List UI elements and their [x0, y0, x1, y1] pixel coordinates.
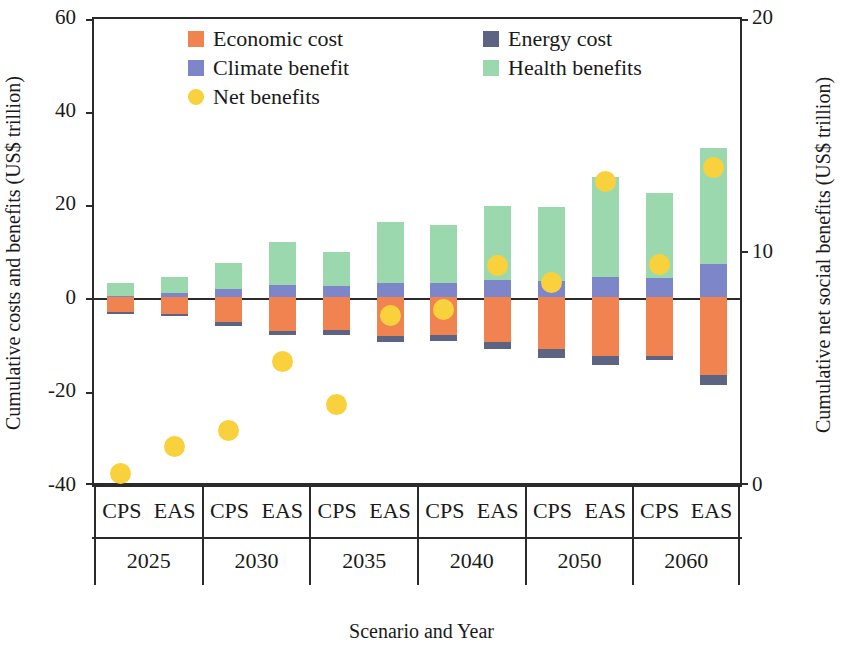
x-scenario-label-cps-2030: CPS [210, 498, 249, 524]
x-scenario-row-2035: CPSEAS [311, 485, 417, 537]
segment-health-benefits [323, 252, 350, 286]
net-benefit-point-2035-eas [380, 305, 401, 326]
net-benefit-point-2030-eas [272, 351, 293, 372]
legend-label-energy-cost: Energy cost [508, 28, 612, 50]
legend-item-economic-cost: Economic cost [188, 26, 343, 52]
x-year-label-2040: 2040 [419, 537, 525, 585]
x-scenario-row-2060: CPSEAS [634, 485, 738, 537]
segment-climate-benefit [323, 286, 350, 297]
x-scenario-label-eas-2060: EAS [691, 498, 733, 524]
segment-health-benefits [107, 283, 134, 295]
segment-climate-benefit [377, 283, 404, 298]
legend-item-net-benefits: Net benefits [188, 84, 320, 110]
legend: Economic cost Energy cost Climate benefi… [188, 26, 688, 108]
segment-climate-benefit [215, 289, 242, 297]
segment-economic-cost [269, 297, 296, 330]
legend-label-net-benefits: Net benefits [213, 86, 320, 108]
segment-climate-benefit [700, 264, 727, 297]
segment-energy-cost [700, 375, 727, 384]
net-benefit-point-2030-cps [218, 420, 239, 441]
bar-2025-eas [161, 19, 188, 483]
x-group-2025: CPSEAS2025 [94, 485, 202, 585]
net-benefit-point-2050-cps [541, 272, 562, 293]
legend-item-energy-cost: Energy cost [483, 26, 612, 52]
segment-health-benefits [430, 225, 457, 283]
segment-economic-cost [161, 297, 188, 314]
legend-swatch-economic-cost [188, 31, 204, 47]
segment-health-benefits [269, 242, 296, 286]
x-scenario-label-eas-2035: EAS [369, 498, 411, 524]
x-table-top-rule [92, 485, 742, 487]
x-table-mid-rule [92, 537, 742, 539]
segment-health-benefits [377, 222, 404, 282]
segment-economic-cost [646, 297, 673, 355]
legend-item-health-benefits: Health benefits [483, 55, 642, 81]
x-group-2040: CPSEAS2040 [417, 485, 525, 585]
segment-energy-cost [538, 349, 565, 357]
x-axis-category-table: CPSEAS2025CPSEAS2030CPSEAS2035CPSEAS2040… [92, 485, 742, 585]
segment-energy-cost [215, 322, 242, 326]
y-tick-left-0: 0 [20, 285, 76, 310]
tick-left-0 [86, 298, 94, 300]
segment-economic-cost [215, 297, 242, 322]
legend-swatch-climate-benefit [188, 60, 204, 76]
segment-energy-cost [107, 312, 134, 314]
y-tick-right-0: 0 [752, 472, 808, 497]
y-tick-left-m20: -20 [20, 378, 76, 403]
segment-energy-cost [323, 330, 350, 335]
segment-economic-cost [484, 297, 511, 342]
segment-energy-cost [484, 342, 511, 349]
segment-economic-cost [700, 297, 727, 375]
x-scenario-label-cps-2025: CPS [102, 498, 141, 524]
chart-figure: Cumulative costs and benefits (US$ trill… [0, 0, 843, 662]
tick-left-60 [86, 19, 94, 21]
legend-swatch-net-benefits [188, 89, 204, 105]
legend-label-economic-cost: Economic cost [213, 28, 343, 50]
x-year-label-2030: 2030 [204, 537, 310, 585]
x-year-label-2060: 2060 [634, 537, 738, 585]
x-scenario-label-cps-2060: CPS [640, 498, 679, 524]
segment-energy-cost [161, 314, 188, 316]
segment-economic-cost [323, 297, 350, 329]
legend-label-health-benefits: Health benefits [508, 57, 642, 79]
segment-health-benefits [161, 277, 188, 293]
segment-energy-cost [646, 356, 673, 361]
segment-energy-cost [430, 335, 457, 341]
x-scenario-row-2040: CPSEAS [419, 485, 525, 537]
x-group-2050: CPSEAS2050 [525, 485, 633, 585]
zero-baseline [94, 298, 740, 300]
tick-right-20 [740, 19, 748, 21]
segment-economic-cost [538, 297, 565, 349]
legend-swatch-energy-cost [483, 31, 499, 47]
net-benefit-point-2050-eas [595, 171, 616, 192]
x-scenario-label-cps-2050: CPS [533, 498, 572, 524]
x-year-label-2035: 2035 [311, 537, 417, 585]
legend-item-climate-benefit: Climate benefit [188, 55, 349, 81]
net-benefit-point-2060-eas [703, 157, 724, 178]
segment-climate-benefit [646, 278, 673, 297]
segment-climate-benefit [269, 285, 296, 297]
tick-left-m20 [86, 392, 94, 394]
x-group-2035: CPSEAS2035 [309, 485, 417, 585]
x-scenario-row-2050: CPSEAS [527, 485, 633, 537]
y-axis-left-title: Cumulative costs and benefits (US$ trill… [2, 18, 25, 488]
tick-left-20 [86, 205, 94, 207]
segment-health-benefits [538, 207, 565, 280]
net-benefit-point-2035-cps [326, 394, 347, 415]
y-tick-left-20: 20 [20, 191, 76, 216]
segment-economic-cost [592, 297, 619, 355]
segment-climate-benefit [592, 277, 619, 297]
segment-energy-cost [592, 356, 619, 365]
x-scenario-label-eas-2025: EAS [154, 498, 196, 524]
bar-2060-eas [700, 19, 727, 483]
tick-right-10 [740, 251, 748, 253]
legend-label-climate-benefit: Climate benefit [213, 57, 349, 79]
segment-economic-cost [107, 297, 134, 312]
y-tick-left-40: 40 [20, 98, 76, 123]
x-year-label-2025: 2025 [96, 537, 202, 585]
segment-climate-benefit [484, 280, 511, 298]
segment-climate-benefit [430, 283, 457, 297]
x-scenario-label-cps-2040: CPS [425, 498, 464, 524]
legend-swatch-health-benefits [483, 60, 499, 76]
segment-health-benefits [215, 263, 242, 289]
